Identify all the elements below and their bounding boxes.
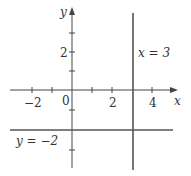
x-tick-label-neg2: −2 (24, 96, 42, 110)
y-tick-label-2: 2 (60, 46, 68, 60)
y-axis-label: y (59, 5, 67, 19)
x-axis (10, 87, 178, 93)
origin-label: 0 (62, 94, 70, 108)
y-axis-arrow-icon (69, 7, 75, 15)
line-label-x3: x = 3 (138, 46, 170, 60)
line-label-y-neg2: y = −2 (15, 134, 58, 148)
x-tick-label-2: 2 (109, 96, 117, 110)
y-axis (69, 7, 75, 168)
x-axis-label: x (174, 94, 181, 108)
x-tick-label-4: 4 (149, 96, 157, 110)
coordinate-plane: y x −2 0 2 4 2 x = 3 y = −2 (0, 0, 191, 176)
x-axis-arrow-icon (170, 87, 178, 93)
